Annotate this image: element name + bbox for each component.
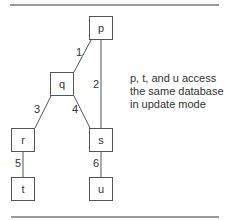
node-q: q [50, 72, 74, 96]
edge-6-label: 6 [93, 158, 99, 169]
node-p-label: p [98, 22, 104, 34]
node-u-label: u [98, 183, 104, 195]
edge-5-label: 5 [15, 158, 21, 169]
node-p: p [89, 16, 113, 40]
note-line-3: in update mode [130, 98, 224, 111]
node-u: u [89, 177, 113, 201]
node-s: s [89, 128, 113, 152]
annotation-note: p, t, and u access the same database in … [130, 72, 224, 111]
edge-1-label: 1 [76, 47, 82, 58]
node-r-label: r [21, 134, 25, 146]
note-line-1: p, t, and u access [130, 72, 224, 85]
node-s-label: s [98, 134, 104, 146]
node-t: t [11, 177, 35, 201]
node-r: r [11, 128, 35, 152]
edge-3-label: 3 [34, 104, 40, 115]
edge-2-label: 2 [93, 79, 99, 90]
node-t-label: t [21, 183, 24, 195]
note-line-2: the same database [130, 85, 224, 98]
edge-4-label: 4 [72, 104, 78, 115]
node-q-label: q [59, 78, 65, 90]
